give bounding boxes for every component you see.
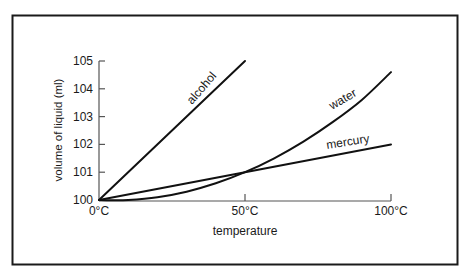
x-tick-label: 0°C	[89, 204, 109, 218]
x-tick-label: 50°C	[232, 204, 259, 218]
y-tick-label: 104	[73, 82, 93, 96]
y-axis-label: volume of liquid (ml)	[52, 78, 64, 181]
y-tick-label: 101	[73, 165, 93, 179]
y-tick-label: 103	[73, 110, 93, 124]
x-axis-label: temperature	[213, 224, 278, 238]
y-tick-label: 102	[73, 137, 93, 151]
thermal-expansion-chart: 1001011021031041050°C50°C100°C alcohol w…	[0, 0, 473, 276]
x-tick-label: 100°C	[374, 204, 408, 218]
y-tick-label: 105	[73, 54, 93, 68]
